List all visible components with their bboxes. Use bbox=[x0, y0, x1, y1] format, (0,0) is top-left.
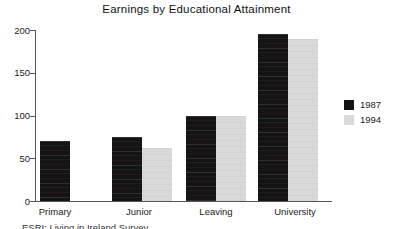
plot-area: 050100150200 PrimaryJuniorLeavingUnivers… bbox=[0, 0, 393, 229]
y-axis-line bbox=[35, 30, 36, 202]
legend-label-1987: 1987 bbox=[360, 99, 381, 110]
bar-1987-junior bbox=[112, 137, 142, 201]
bar-1987-primary bbox=[40, 141, 70, 201]
bar-1987-university bbox=[258, 34, 288, 201]
y-tick-label-0: 0 bbox=[4, 196, 30, 207]
y-tick-mark-0 bbox=[30, 201, 35, 202]
legend-item-1987: 1987 bbox=[344, 99, 381, 110]
legend: 19871994 bbox=[344, 99, 381, 129]
bar-1994-leaving bbox=[216, 116, 246, 202]
x-category-label-leaving: Leaving bbox=[171, 206, 261, 217]
y-tick-mark-200 bbox=[30, 30, 35, 31]
bar-1994-university bbox=[288, 39, 318, 201]
y-tick-mark-50 bbox=[30, 158, 35, 159]
x-category-label-primary: Primary bbox=[10, 206, 100, 217]
y-tick-label-150: 150 bbox=[4, 67, 30, 78]
y-tick-mark-100 bbox=[30, 116, 35, 117]
legend-swatch-1994 bbox=[344, 115, 354, 125]
bar-1994-junior bbox=[142, 148, 172, 201]
legend-label-1994: 1994 bbox=[360, 114, 381, 125]
y-tick-label-200: 200 bbox=[4, 25, 30, 36]
y-tick-label-50: 50 bbox=[4, 153, 30, 164]
legend-item-1994: 1994 bbox=[344, 114, 381, 125]
y-tick-mark-150 bbox=[30, 73, 35, 74]
bar-1987-leaving bbox=[186, 116, 216, 202]
source-note: ESRI: Living in Ireland Survey bbox=[22, 222, 148, 229]
x-category-label-university: University bbox=[250, 206, 340, 217]
legend-swatch-1987 bbox=[344, 100, 354, 110]
earnings-bar-chart: Earnings by Educational Attainment 05010… bbox=[0, 0, 393, 229]
x-axis-line bbox=[35, 201, 332, 202]
y-tick-label-100: 100 bbox=[4, 110, 30, 121]
